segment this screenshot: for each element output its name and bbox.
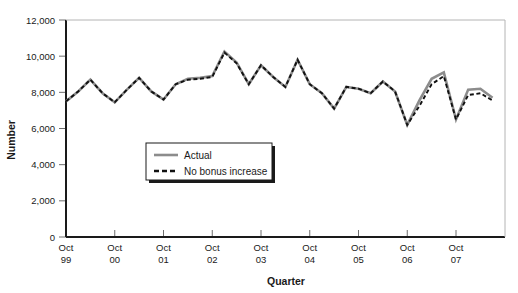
x-axis-tick-label-month: Oct [59,242,74,253]
chart-legend: Actual No bonus increase [146,143,275,183]
x-axis-tick-label-year: 00 [109,254,120,265]
series-line-actual [66,52,493,125]
x-axis-tick-label-year: 02 [207,254,218,265]
x-axis-tick-label-month: Oct [205,242,220,253]
x-axis-title: Quarter [267,275,305,287]
y-axis-tick-label: 4,000 [31,159,55,170]
x-axis-tick-label-month: Oct [449,242,464,253]
legend-label-actual: Actual [184,150,212,161]
y-axis-tick-label: 12,000 [26,15,55,26]
x-axis-tick-label-year: 01 [158,254,169,265]
chart-figure: 02,0004,0006,0008,00010,00012,000 Oct99O… [0,0,518,293]
y-axis-tick-label: 6,000 [31,123,55,134]
x-axis-tick-label-month: Oct [254,242,269,253]
x-axis-tick-label-month: Oct [107,242,122,253]
series-line-no-bonus-increase [66,53,493,125]
x-axis-tick-label-month: Oct [302,242,317,253]
x-axis-tick-label-month: Oct [351,242,366,253]
x-axis-tick-label-year: 04 [304,254,315,265]
x-axis-tick-label-month: Oct [156,242,171,253]
y-axis-tick-label: 0 [50,232,55,243]
x-axis-tick-label-month: Oct [400,242,415,253]
legend-label-no-bonus-increase: No bonus increase [184,166,268,177]
x-axis-tick-label-year: 99 [61,254,72,265]
x-axis-tick-group: Oct99Oct00Oct01Oct02Oct03Oct04Oct05Oct06… [59,230,464,265]
line-chart-canvas: 02,0004,0006,0008,00010,00012,000 Oct99O… [0,0,518,293]
x-axis-tick-label-year: 06 [402,254,413,265]
x-axis-tick-label-year: 05 [353,254,364,265]
data-series-group [66,52,493,125]
x-axis-tick-label-year: 03 [256,254,267,265]
y-axis-tick-group: 02,0004,0006,0008,00010,00012,000 [26,15,66,243]
x-axis-tick-label-year: 07 [451,254,462,265]
y-axis-tick-label: 8,000 [31,87,55,98]
y-axis-tick-label: 10,000 [26,51,55,62]
y-axis-title: Number [5,120,17,160]
y-axis-tick-label: 2,000 [31,195,55,206]
